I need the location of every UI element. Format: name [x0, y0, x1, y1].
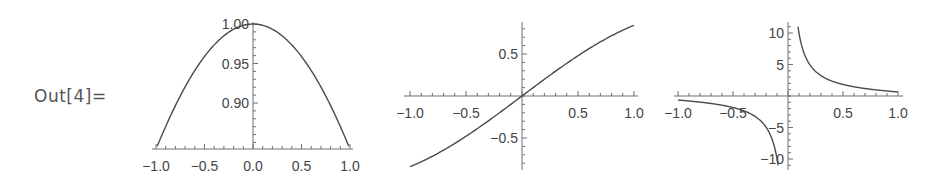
x-tick-label: −0.5	[452, 105, 480, 121]
y-tick-label: 0.90	[222, 95, 249, 111]
plot-cot: 105−5−10−1.0−0.50.51.0	[664, 22, 908, 170]
x-tick-label: −0.5	[191, 158, 219, 174]
x-tick-label: 1.0	[888, 105, 908, 121]
y-tick-label: 5	[776, 57, 784, 73]
x-tick-label: −1.0	[396, 105, 424, 121]
function-curve	[798, 27, 898, 92]
y-tick-label: 0.5	[499, 46, 519, 62]
plots-canvas: 0.900.951.00−1.0−0.50.00.51.0 0.5−0.5−1.…	[0, 0, 944, 180]
x-tick-label: 0.5	[833, 105, 853, 121]
y-tick-label: 1.00	[222, 16, 249, 32]
y-tick-label: 0.95	[222, 56, 249, 72]
y-tick-label: 10	[768, 25, 784, 41]
y-tick-label: −10	[760, 151, 784, 167]
x-tick-label: 0.5	[568, 105, 588, 121]
plot-sinc: 0.900.951.00−1.0−0.50.00.51.0	[142, 16, 360, 174]
x-tick-label: 1.0	[340, 158, 360, 174]
y-tick-label: −5	[768, 120, 784, 136]
x-tick-label: −1.0	[664, 105, 692, 121]
y-tick-label: −0.5	[490, 130, 518, 146]
x-tick-label: 0.0	[243, 158, 263, 174]
x-tick-label: 0.5	[292, 158, 312, 174]
x-tick-label: −1.0	[142, 158, 170, 174]
x-tick-label: 1.0	[624, 105, 644, 121]
plot-sin: 0.5−0.5−1.0−0.50.51.0	[396, 22, 644, 170]
